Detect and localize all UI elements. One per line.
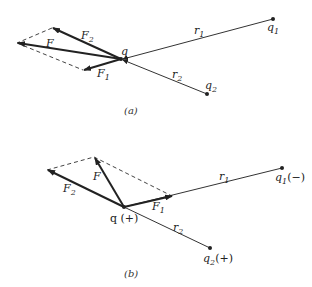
label-q1: q1 bbox=[267, 22, 279, 36]
coulomb-force-figure: F2 F F1 q r1 r2 q1 q2 (a) F2 F F1 q (+) … bbox=[0, 0, 312, 287]
label-f: F bbox=[93, 171, 101, 182]
label-r2: r2 bbox=[172, 69, 182, 83]
diagram-a bbox=[17, 17, 275, 96]
diagram-b bbox=[47, 157, 284, 250]
label-r2: r2 bbox=[173, 222, 183, 236]
label-q1-negative: q1(−) bbox=[275, 172, 305, 186]
label-f2: F2 bbox=[81, 30, 94, 44]
parallelogram-dash-top bbox=[47, 157, 94, 170]
force-f1-arrow bbox=[124, 196, 172, 207]
label-f1: F1 bbox=[152, 201, 165, 215]
caption-b: (b) bbox=[124, 268, 138, 279]
label-q: q bbox=[121, 46, 128, 57]
label-q2: q2 bbox=[205, 80, 217, 94]
charge-q1-dot bbox=[280, 166, 284, 170]
label-f1: F1 bbox=[97, 68, 110, 82]
r2-line bbox=[123, 60, 207, 94]
label-f2: F2 bbox=[63, 183, 76, 197]
charge-q-dot bbox=[122, 205, 126, 209]
label-r1: r1 bbox=[194, 25, 204, 39]
label-q2-positive: q2(+) bbox=[203, 253, 233, 267]
caption-a: (a) bbox=[124, 105, 138, 116]
charge-q2-dot bbox=[208, 246, 212, 250]
label-f: F bbox=[46, 38, 54, 49]
label-r1: r1 bbox=[219, 171, 229, 185]
label-q-positive: q (+) bbox=[110, 213, 138, 224]
